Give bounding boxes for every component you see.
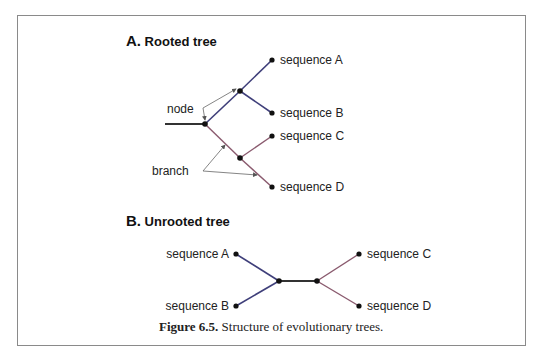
- leaf-label-b: sequence B: [280, 106, 343, 120]
- ubranch-b: [236, 281, 279, 306]
- branch-lower: [205, 124, 240, 158]
- uleaf-node-b: [233, 303, 238, 308]
- unode-left: [276, 278, 282, 284]
- branch-c: [240, 136, 272, 158]
- uleaf-label-b: sequence B: [166, 299, 229, 313]
- branch-a: [240, 60, 272, 91]
- leaf-node-c: [269, 133, 274, 138]
- leaf-node-b: [269, 110, 274, 115]
- uleaf-label-d: sequence D: [367, 299, 431, 313]
- leaf-label-c: sequence C: [280, 129, 344, 143]
- unode-right: [314, 278, 320, 284]
- node-arrow-root: [203, 108, 205, 120]
- leaf-node-d: [269, 184, 274, 189]
- uleaf-label-c: sequence C: [367, 247, 431, 261]
- uleaf-node-a: [233, 251, 238, 256]
- leaf-node-a: [269, 57, 274, 62]
- branch-arrow-lower: [203, 171, 257, 175]
- figure-caption: Figure 6.5. Structure of evolutionary tr…: [159, 319, 383, 334]
- tree-diagram: A. Rooted tree sequence A sequence B seq…: [0, 0, 544, 362]
- branch-upper: [205, 91, 240, 124]
- uleaf-node-d: [356, 303, 361, 308]
- branch-label: branch: [152, 164, 189, 178]
- branch-arrow-upper: [203, 145, 225, 171]
- internal-node-upper: [237, 88, 243, 94]
- internal-node-lower: [237, 155, 243, 161]
- rooted-tree: sequence A sequence B sequence C sequenc…: [165, 53, 344, 194]
- ubranch-c: [317, 254, 359, 281]
- branch-b: [240, 91, 272, 113]
- node-label: node: [167, 102, 194, 116]
- leaf-label-d: sequence D: [280, 180, 344, 194]
- annotations: node branch: [152, 89, 257, 178]
- leaf-label-a: sequence A: [280, 53, 343, 67]
- panel-b-title: B. Unrooted tree: [126, 212, 230, 229]
- uleaf-node-c: [356, 251, 361, 256]
- ubranch-a: [236, 254, 279, 281]
- root-node: [202, 121, 208, 127]
- unrooted-tree: sequence A sequence B sequence C sequenc…: [166, 247, 432, 313]
- uleaf-label-a: sequence A: [166, 247, 229, 261]
- branch-d: [240, 158, 272, 187]
- panel-a-title: A. Rooted tree: [126, 32, 217, 49]
- ubranch-d: [317, 281, 359, 306]
